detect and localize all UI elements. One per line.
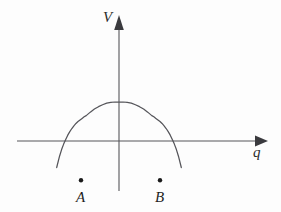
x-axis-label: q xyxy=(253,145,261,160)
plot-canvas xyxy=(0,0,281,212)
potential-figure: V q A B xyxy=(0,0,281,212)
minimum-label-a: A xyxy=(76,190,85,205)
minimum-label-b: B xyxy=(155,190,164,205)
y-axis-arrow-icon xyxy=(114,15,124,30)
minimum-dot-b xyxy=(158,178,162,182)
y-axis-label: V xyxy=(103,10,112,25)
minimum-dot-a xyxy=(79,178,83,182)
